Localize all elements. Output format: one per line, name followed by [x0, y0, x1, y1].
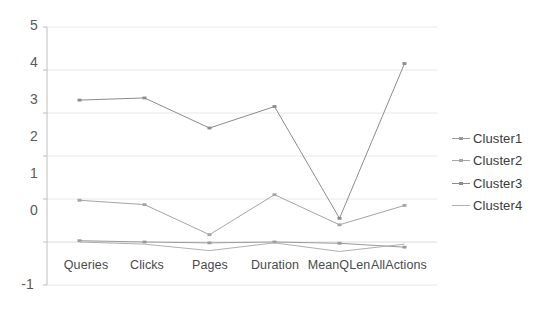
- x-axis-tick-queries: Queries: [56, 258, 116, 272]
- legend-item-cluster4[interactable]: Cluster4: [452, 196, 522, 216]
- series-cluster3: [78, 62, 407, 220]
- series-cluster2: [78, 193, 407, 236]
- data-point: [403, 62, 407, 65]
- y-axis-line: [43, 27, 47, 285]
- legend-swatch-cluster4: [452, 201, 470, 211]
- data-point: [403, 246, 407, 249]
- legend-item-cluster3[interactable]: Cluster3: [452, 173, 522, 193]
- legend-label-cluster1: Cluster1: [473, 131, 522, 146]
- line-chart: 5 4 3 2 1 0 -1 Queries Clicks Pages Dura…: [0, 0, 546, 317]
- legend-label-cluster4: Cluster4: [473, 198, 522, 213]
- x-axis-tick-clicks: Clicks: [120, 258, 174, 272]
- data-point: [208, 127, 212, 130]
- legend-item-cluster2[interactable]: Cluster2: [452, 151, 522, 171]
- legend-swatch-cluster3: [452, 178, 470, 188]
- data-point: [273, 105, 277, 108]
- x-axis-tick-duration: Duration: [240, 258, 310, 272]
- data-point: [78, 99, 82, 102]
- data-point: [143, 97, 147, 100]
- data-point: [208, 233, 212, 236]
- legend-marker: [459, 159, 463, 162]
- data-point: [208, 241, 212, 244]
- data-point: [273, 193, 277, 196]
- x-axis-tick-allactions: AllActions: [361, 258, 437, 272]
- legend-marker: [459, 182, 463, 185]
- data-point: [338, 242, 342, 245]
- legend: Cluster1 Cluster2 Cluster3 Cluster4: [452, 128, 522, 218]
- data-point: [143, 241, 147, 244]
- legend-label-cluster3: Cluster3: [473, 176, 522, 191]
- data-point: [338, 223, 342, 226]
- legend-swatch-cluster2: [452, 156, 470, 166]
- data-point: [338, 217, 342, 220]
- x-axis-tick-pages: Pages: [183, 258, 237, 272]
- data-point: [403, 204, 407, 207]
- legend-line: [452, 205, 470, 206]
- data-point: [78, 199, 82, 202]
- data-point: [143, 203, 147, 206]
- legend-label-cluster2: Cluster2: [473, 153, 522, 168]
- series-cluster4: [80, 242, 405, 251]
- legend-swatch-cluster1: [452, 133, 470, 143]
- legend-marker: [459, 137, 463, 140]
- series-layer: [78, 62, 407, 251]
- legend-item-cluster1[interactable]: Cluster1: [452, 128, 522, 148]
